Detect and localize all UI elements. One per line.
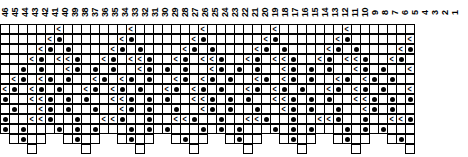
yarn-over-icon [3, 97, 8, 102]
decrease-icon: < [129, 55, 133, 64]
decrease-icon: < [273, 95, 277, 104]
decrease-cell: < [405, 84, 415, 94]
decrease-icon: < [282, 105, 286, 114]
decrease-icon: < [246, 55, 250, 64]
decrease-icon: < [39, 45, 43, 54]
column-number: 41 [50, 0, 60, 24]
decrease-icon: < [129, 25, 133, 34]
yarn-over-icon [147, 107, 152, 112]
yarn-over-icon [237, 127, 242, 132]
decrease-icon: < [30, 115, 34, 124]
yarn-over-icon [372, 77, 377, 82]
decrease-icon: < [390, 55, 394, 64]
yarn-over-icon [120, 87, 125, 92]
chart-row: <<<<<<<<<< [0, 94, 468, 104]
decrease-icon: < [201, 75, 205, 84]
decrease-icon: < [111, 95, 115, 104]
yarn-over-icon [219, 87, 224, 92]
yarn-over-icon [129, 97, 134, 102]
yarn-over-icon [408, 97, 413, 102]
decrease-icon: < [57, 25, 61, 34]
yarn-over-icon [336, 117, 341, 122]
column-number: 32 [140, 0, 150, 24]
yarn-over-icon [255, 87, 260, 92]
yarn-over-cell [405, 44, 415, 54]
decrease-icon: < [255, 115, 259, 124]
knit-cell [405, 74, 415, 84]
yarn-over-icon [300, 87, 305, 92]
column-number: 7 [390, 0, 400, 24]
yarn-over-icon [291, 97, 296, 102]
column-number: 26 [200, 0, 210, 24]
column-number: 30 [160, 0, 170, 24]
column-number: 28 [180, 0, 190, 24]
yarn-over-icon [354, 47, 359, 52]
yarn-over-icon [183, 67, 188, 72]
column-number: 43 [30, 0, 40, 24]
decrease-icon: < [174, 75, 178, 84]
column-number: 42 [40, 0, 50, 24]
yarn-over-icon [228, 97, 233, 102]
yarn-over-icon [291, 107, 296, 112]
decrease-icon: < [282, 65, 286, 74]
yarn-over-icon [264, 117, 269, 122]
chart-row: <<<<<< [0, 44, 468, 54]
yarn-over-icon [237, 137, 242, 142]
yarn-over-icon [84, 97, 89, 102]
column-number: 24 [220, 0, 230, 24]
yarn-over-icon [3, 117, 8, 122]
column-number: 38 [80, 0, 90, 24]
decrease-icon: < [327, 45, 331, 54]
column-number: 22 [240, 0, 250, 24]
yarn-over-icon [147, 97, 152, 102]
yarn-over-icon [381, 127, 386, 132]
decrease-icon: < [408, 35, 412, 44]
yarn-over-icon [138, 87, 143, 92]
decrease-icon: < [12, 75, 16, 84]
yarn-over-icon [93, 127, 98, 132]
yarn-over-icon [246, 97, 251, 102]
yarn-over-icon [273, 37, 278, 42]
chart-row: <<<<<<<<<<< [0, 84, 468, 94]
yarn-over-icon [210, 107, 215, 112]
yarn-over-icon [201, 127, 206, 132]
yarn-over-icon [291, 67, 296, 72]
yarn-over-icon [57, 37, 62, 42]
yarn-over-icon [210, 47, 215, 52]
yarn-over-icon [219, 57, 224, 62]
yarn-over-icon [183, 137, 188, 142]
column-number: 34 [120, 0, 130, 24]
decrease-icon: < [327, 85, 331, 94]
yarn-over-icon [75, 127, 80, 132]
decrease-icon: < [39, 115, 43, 124]
decrease-icon: < [345, 25, 349, 34]
yarn-over-icon [183, 57, 188, 62]
yarn-over-icon [48, 47, 53, 52]
yarn-over-icon [174, 87, 179, 92]
decrease-icon: < [255, 75, 259, 84]
yarn-over-icon [147, 57, 152, 62]
decrease-icon: < [273, 55, 277, 64]
yarn-over-icon [237, 67, 242, 72]
column-number: 29 [170, 0, 180, 24]
yarn-over-icon [12, 107, 17, 112]
yarn-over-icon [228, 107, 233, 112]
column-number: 18 [280, 0, 290, 24]
yarn-over-icon [120, 47, 125, 52]
decrease-icon: < [354, 95, 358, 104]
yarn-over-icon [165, 97, 170, 102]
yarn-over-icon [336, 107, 341, 112]
yarn-over-icon [363, 57, 368, 62]
yarn-over-icon [219, 117, 224, 122]
decrease-icon: < [363, 95, 367, 104]
yarn-over-icon [219, 67, 224, 72]
yarn-over-icon [372, 107, 377, 112]
decrease-icon: < [84, 85, 88, 94]
chart-row: <<<<< [0, 104, 468, 114]
yarn-over-icon [345, 37, 350, 42]
decrease-icon: < [48, 35, 52, 44]
yarn-over-icon [102, 77, 107, 82]
decrease-icon: < [3, 85, 7, 94]
yarn-over-icon [363, 87, 368, 92]
decrease-icon: < [399, 115, 403, 124]
